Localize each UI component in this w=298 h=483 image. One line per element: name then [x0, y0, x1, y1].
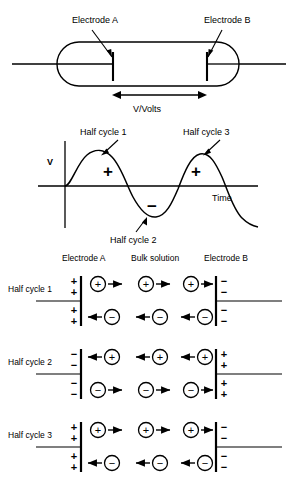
migration-column-header-electrode-a: Electrode A	[62, 253, 106, 263]
row3-electrode-a-charge: +	[71, 432, 77, 444]
migration-column-header-electrode-b: Electrode B	[204, 253, 248, 263]
electrode-a-callout-label: Electrode A	[72, 15, 118, 25]
waveform-diagram: Half cycle 1 Half cycle 3 Half cycle 2 V…	[0, 123, 298, 248]
row3-anion-group: − − −	[88, 456, 213, 471]
row1-anion-group: − − −	[88, 310, 213, 325]
row3-cation-symbol: +	[95, 424, 101, 436]
migration-row-label-3: Half cycle 3	[8, 430, 52, 440]
row3-cation-symbol: +	[143, 424, 149, 436]
row1-anion-symbol: −	[157, 311, 163, 323]
migration-row-label-2: Half cycle 2	[8, 357, 52, 367]
row1-electrode-a-charge: +	[71, 286, 77, 298]
row2-anion-symbol: −	[95, 384, 101, 396]
row2-cation-symbol: +	[109, 351, 115, 363]
row1-cation-symbol: +	[143, 278, 149, 290]
row3-electrode-b-charge: −	[221, 432, 227, 444]
row2-electrode-a-charge: −	[71, 359, 77, 371]
row2-electrode-b-charge: +	[221, 388, 227, 400]
electrode-a-callout-arrow	[92, 30, 112, 57]
sine-curve	[65, 151, 258, 227]
migration-diagram: Electrode A Bulk solution Electrode B Ha…	[0, 250, 298, 483]
waveform-positive-marker-2: +	[191, 162, 201, 181]
row3-electrode-b-charge: −	[221, 461, 227, 473]
row2-anion-symbol: −	[143, 384, 149, 396]
row3-anion-symbol: −	[109, 457, 115, 469]
waveform-annotation-half-cycle-3: Half cycle 3	[183, 127, 230, 137]
row2-cation-symbol: +	[157, 351, 163, 363]
row3-cation-group: + + +	[91, 423, 214, 438]
row2-anion-group: − − −	[91, 383, 214, 398]
voltage-span-arrow	[112, 91, 207, 99]
electrode-b-callout-arrow	[208, 30, 222, 57]
row1-cation-group: + + +	[91, 277, 214, 292]
row1-anion-symbol: −	[109, 311, 115, 323]
cell-diagram: Electrode A Electrode B V/Volts	[0, 0, 298, 120]
row1-cation-symbol: +	[188, 278, 194, 290]
electrode-b-callout-label: Electrode B	[204, 15, 251, 25]
annotation-arrow-3	[203, 140, 220, 156]
migration-row-label-1: Half cycle 1	[8, 284, 52, 294]
voltage-label: V/Volts	[133, 104, 162, 114]
waveform-negative-marker: −	[147, 197, 157, 216]
row1-electrode-b-charge: −	[221, 286, 227, 298]
row3-electrode-a-charge: +	[71, 461, 77, 473]
row1-cation-symbol: +	[95, 278, 101, 290]
row3-cation-symbol: +	[188, 424, 194, 436]
waveform-positive-marker-1: +	[103, 162, 113, 181]
migration-row: Half cycle 1 + + + + − − − − + +	[8, 275, 282, 327]
migration-column-header-bulk-solution: Bulk solution	[131, 253, 179, 263]
row2-electrode-a-charge: −	[71, 388, 77, 400]
row2-electrode-b-charge: +	[221, 359, 227, 371]
annotation-arrow-2	[136, 217, 147, 232]
row3-anion-symbol: −	[157, 457, 163, 469]
waveform-y-axis-label: V	[47, 157, 53, 167]
row2-cation-symbol: +	[202, 351, 208, 363]
waveform-annotation-half-cycle-1: Half cycle 1	[80, 127, 127, 137]
migration-row: Half cycle 2 − − − − + + + + + + +	[8, 348, 282, 400]
waveform-annotation-half-cycle-2: Half cycle 2	[110, 235, 157, 245]
figure-canvas: Electrode A Electrode B V/Volts	[0, 0, 298, 483]
row1-electrode-a-charge: +	[71, 315, 77, 327]
annotation-arrow-1	[101, 140, 118, 156]
row1-electrode-b-charge: −	[221, 315, 227, 327]
row2-cation-group: + + +	[88, 350, 213, 365]
row3-anion-symbol: −	[202, 457, 208, 469]
row2-anion-symbol: −	[188, 384, 194, 396]
migration-row: Half cycle 3 + + + + − − − − + + +	[8, 421, 282, 473]
row1-anion-symbol: −	[202, 311, 208, 323]
